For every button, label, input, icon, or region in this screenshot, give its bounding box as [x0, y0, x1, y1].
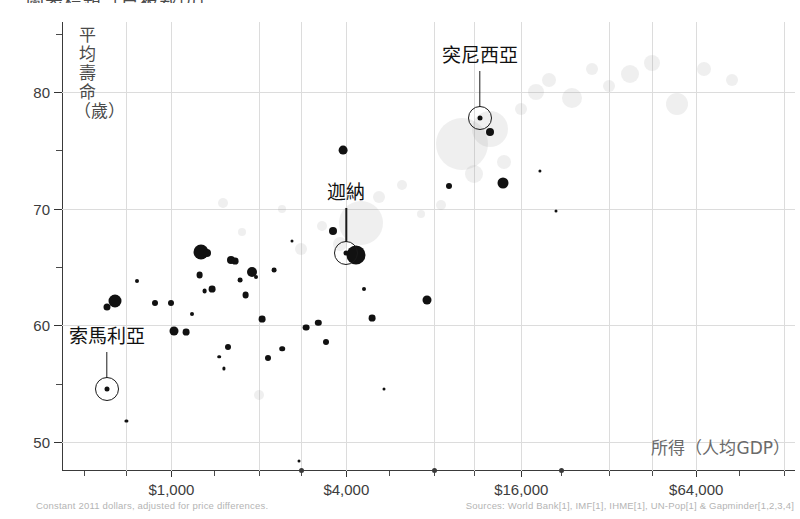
data-bubble [223, 367, 226, 370]
annotation-marker-ring[interactable] [334, 241, 358, 265]
y-tick [54, 325, 62, 326]
plot-area: 50607080$1,000$4,000$16,000$64,000 索馬利亞迦… [62, 22, 795, 471]
data-bubble [265, 355, 271, 361]
x-tick [696, 471, 697, 477]
data-bubble [193, 244, 208, 259]
annotation-marker-ring[interactable] [468, 106, 492, 130]
annotation-label: 索馬利亞 [69, 321, 145, 348]
data-bubble [203, 249, 211, 257]
gridline-v [434, 22, 435, 471]
y-tick-label: 80 [33, 83, 50, 100]
y-tick [54, 92, 62, 93]
page-title: 圖表標題（已被裁切） [26, 0, 216, 3]
data-bubble [237, 277, 242, 282]
ghost-bubble [397, 180, 407, 190]
x-tick-minor [259, 471, 260, 476]
data-bubble [369, 315, 376, 322]
gridline-v [259, 22, 260, 471]
y-tick-minor [56, 150, 62, 151]
data-bubble [242, 291, 249, 298]
ghost-bubble [317, 221, 327, 231]
ghost-bubble [218, 198, 228, 208]
y-tick [54, 209, 62, 210]
x-axis-marker-dot [299, 468, 304, 473]
data-bubble [182, 329, 189, 336]
annotation-label: 突尼西亞 [442, 40, 518, 67]
y-tick-minor [56, 267, 62, 268]
chart-page: 圖表標題（已被裁切） 50607080$1,000$4,000$16,000$6… [0, 0, 800, 519]
data-bubble [538, 170, 541, 173]
data-bubble [554, 209, 557, 212]
data-bubble [196, 272, 203, 279]
annotation-leader-line [106, 352, 107, 378]
x-tick-label: $1,000 [149, 481, 195, 498]
x-axis-title: 所得（人均GDP） [651, 434, 790, 459]
data-bubble [329, 227, 337, 235]
data-bubble [190, 312, 194, 316]
y-tick [54, 442, 62, 443]
data-bubble [247, 267, 257, 277]
data-bubble [232, 258, 239, 265]
gridline-v [696, 22, 697, 471]
gridline-v [652, 22, 653, 471]
x-tick-minor [784, 471, 785, 476]
data-bubble [383, 388, 386, 391]
gridline-v [784, 22, 785, 471]
annotation-label: 迦納 [327, 177, 365, 204]
ghost-bubble [726, 74, 738, 86]
data-bubble [298, 459, 301, 462]
ghost-bubble [417, 210, 425, 218]
data-bubble [323, 339, 329, 345]
annotation-leader-line [346, 208, 347, 242]
x-tick-minor [126, 471, 127, 476]
ghost-bubble [238, 228, 246, 236]
data-bubble [152, 300, 158, 306]
x-axis-marker-dot [559, 468, 564, 473]
gridline-v [609, 22, 610, 471]
annotation-marker-ring[interactable] [95, 377, 119, 401]
x-tick-label: $4,000 [323, 481, 369, 498]
x-tick [346, 471, 347, 477]
x-tick-minor [214, 471, 215, 476]
footer-note-right: Sources: World Bank[1], IMF[1], IHME[1],… [466, 500, 794, 511]
data-bubble [135, 279, 139, 283]
y-axis-line [62, 22, 63, 471]
data-bubble [225, 344, 231, 350]
annotation-leader-line [479, 71, 480, 107]
data-bubble [291, 240, 294, 243]
x-axis-marker-dot [432, 468, 437, 473]
data-bubble [209, 286, 216, 293]
x-tick-minor [652, 471, 653, 476]
data-bubble [254, 275, 258, 279]
x-tick [171, 471, 172, 477]
data-bubble [104, 303, 111, 310]
data-bubble [446, 183, 452, 189]
y-tick-label: 50 [33, 433, 50, 450]
ghost-bubble [373, 191, 385, 203]
x-tick-minor [739, 471, 740, 476]
y-axis-title: 平均壽命（歲） [74, 26, 100, 121]
ghost-bubble [697, 62, 711, 76]
ghost-bubble [666, 93, 688, 115]
x-tick-label: $64,000 [669, 481, 723, 498]
ghost-bubble [621, 65, 639, 83]
x-tick-minor [84, 471, 85, 476]
x-tick [521, 471, 522, 477]
data-bubble [423, 295, 432, 304]
gridline-v [171, 22, 172, 471]
x-tick-label: $16,000 [494, 481, 548, 498]
gridline-v [301, 22, 302, 471]
ghost-bubble [562, 88, 582, 108]
y-tick-label: 60 [33, 317, 50, 334]
data-bubble [362, 287, 366, 291]
x-tick-minor [389, 471, 390, 476]
data-bubble [109, 294, 122, 307]
x-tick-minor [609, 471, 610, 476]
data-bubble [486, 128, 494, 136]
data-bubble [271, 268, 276, 273]
data-bubble [227, 256, 235, 264]
ghost-bubble [497, 155, 511, 169]
gridline-v [126, 22, 127, 471]
data-bubble [279, 346, 285, 352]
data-bubble [217, 355, 221, 359]
